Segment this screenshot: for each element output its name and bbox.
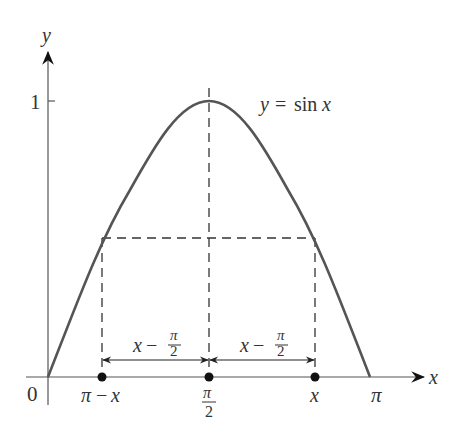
origin-label: 0 [27,382,38,406]
svg-text:y: y [258,93,269,116]
svg-text:−: − [253,334,264,356]
point-pi-minus-x [98,373,107,382]
svg-text:π: π [277,327,285,343]
tick-label-x: x [309,384,319,406]
svg-text:x: x [321,93,331,115]
point-pi-over-2 [205,373,214,382]
tick-label-pi-minus-x: π − x [81,384,120,406]
y-tick-label-1: 1 [30,90,41,114]
svg-text:−: − [96,384,107,406]
tick-label-pi-over-2: π 2 [202,384,216,420]
dimension-label-right: x − π 2 [239,327,288,359]
svg-text:π: π [170,327,178,343]
svg-text:−: − [146,334,157,356]
svg-text:2: 2 [170,343,178,359]
point-x [311,373,320,382]
svg-text:π: π [81,384,92,406]
svg-text:π: π [203,384,212,401]
svg-text:2: 2 [277,343,285,359]
dimension-label-left: x − π 2 [132,327,181,359]
sine-symmetry-diagram: y x 1 0 y = sin x π − x π 2 x π x − π 2 … [0,0,464,434]
tick-label-pi: π [371,383,382,407]
svg-text:x: x [110,384,120,406]
svg-text:x: x [239,334,249,356]
svg-text:x: x [132,334,142,356]
curve-label: y = sin x [258,93,331,116]
svg-text:=: = [275,93,286,115]
x-axis-label: x [428,366,438,388]
svg-text:2: 2 [205,403,213,420]
svg-text:sin: sin [294,93,317,115]
y-axis-label: y [40,24,51,47]
